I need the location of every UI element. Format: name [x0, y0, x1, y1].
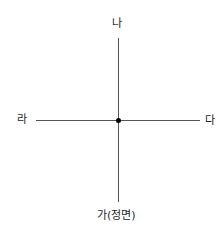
label-bottom-front: 가(정면): [97, 210, 136, 222]
center-point: [116, 118, 121, 123]
label-top: 나: [112, 18, 122, 30]
label-left: 라: [17, 114, 27, 126]
label-right: 다: [205, 115, 215, 127]
